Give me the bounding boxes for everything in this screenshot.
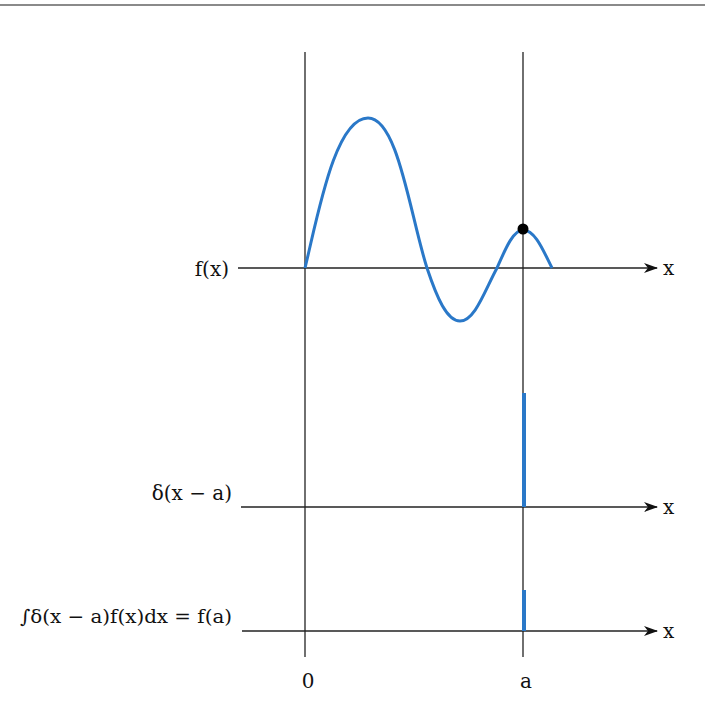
x-axis-bottom-label: x <box>663 619 675 643</box>
f-of-x-label: f(x) <box>195 257 229 281</box>
tick-a-label: a <box>520 669 532 693</box>
x-axis-middle-label: x <box>663 495 675 519</box>
f-of-a-point <box>518 224 529 235</box>
f-of-x-curve <box>305 118 552 321</box>
delta-function-diagram: f(x) δ(x − a) ∫δ(x − a)f(x)dx = f(a) x x… <box>0 0 705 726</box>
delta-label: δ(x − a) <box>152 481 232 505</box>
integral-label: ∫δ(x − a)f(x)dx = f(a) <box>20 605 232 627</box>
tick-zero-label: 0 <box>302 669 315 693</box>
x-axis-top-label: x <box>663 256 675 280</box>
